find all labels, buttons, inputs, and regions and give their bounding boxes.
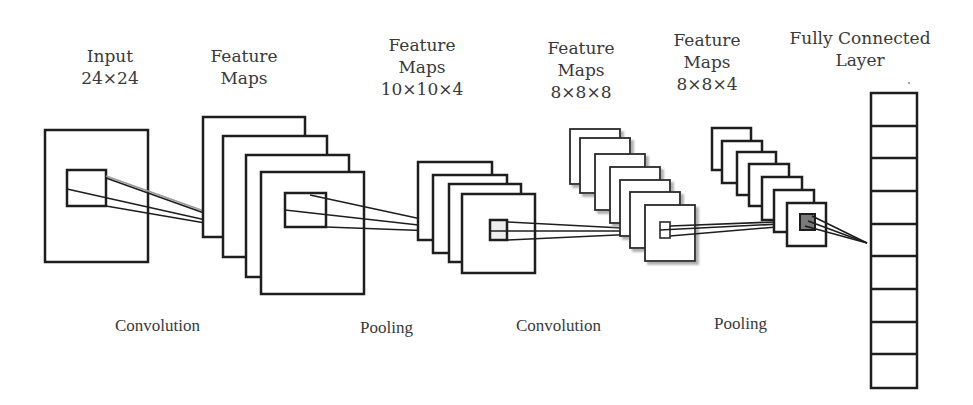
label-input-title: Input — [70, 45, 150, 67]
label-fm3-size: 8×8×8 — [538, 81, 624, 103]
pool1-kernel-window — [490, 220, 507, 240]
label-input-size: 24×24 — [70, 67, 150, 89]
label-fm2-line2: Maps — [372, 56, 472, 78]
label-fm4-line2: Maps — [664, 51, 750, 73]
label-fm3-line2: Maps — [538, 59, 624, 81]
label-feature-maps-3: Feature Maps 8×8×8 — [538, 37, 624, 103]
label-fm3-line1: Feature — [538, 37, 624, 59]
label-fm2-line1: Feature — [372, 34, 472, 56]
label-feature-maps-1: Feature Maps — [200, 45, 288, 89]
op-pooling-2: Pooling — [714, 314, 767, 334]
stray-dot — [908, 82, 910, 84]
label-fc-line2: Layer — [775, 49, 945, 71]
label-feature-maps-2: Feature Maps 10×10×4 — [372, 34, 472, 100]
label-fm4-size: 8×8×4 — [664, 73, 750, 95]
label-input: Input 24×24 — [70, 45, 150, 89]
label-fm1-line1: Feature — [200, 45, 288, 67]
op-convolution-2: Convolution — [516, 316, 601, 336]
op-pooling-1: Pooling — [360, 318, 413, 338]
label-feature-maps-4: Feature Maps 8×8×4 — [664, 29, 750, 95]
label-fm4-line1: Feature — [664, 29, 750, 51]
fully-connected-layer — [871, 93, 917, 388]
label-fm2-size: 10×10×4 — [372, 78, 472, 100]
label-fc-line1: Fully Connected — [775, 27, 945, 49]
conv1-feature-maps — [203, 117, 364, 294]
conv2-feature-maps — [570, 129, 695, 261]
label-fully-connected: Fully Connected Layer — [775, 27, 945, 71]
pool1-feature-maps — [418, 162, 535, 273]
input-kernel-window — [67, 170, 106, 206]
op-convolution-1: Convolution — [115, 316, 200, 336]
label-fm1-line2: Maps — [200, 67, 288, 89]
